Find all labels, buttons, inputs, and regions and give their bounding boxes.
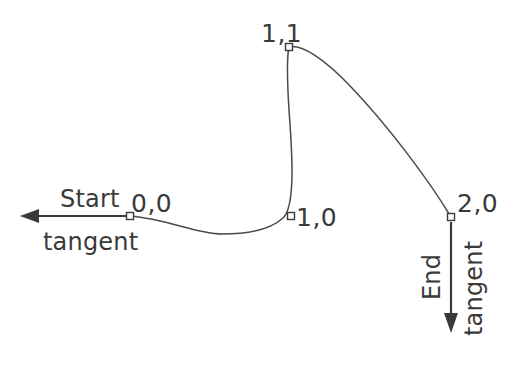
end-tangent-arrowhead-icon [444,313,458,333]
figure-canvas: 0,0 1,0 1,1 2,0 Start tangent End tangen… [0,0,514,365]
control-point-label-11: 1,1 [261,19,302,48]
end-tangent-label-line2: tangent [460,241,488,336]
spline-curve-group [130,47,451,234]
start-tangent-label-line2: tangent [43,228,138,256]
start-tangent-labels: Start tangent [43,185,138,256]
control-point-label-10: 1,0 [296,203,337,232]
control-point-marker-10[interactable] [288,213,295,220]
spline-curve [130,47,451,234]
control-point-label-00: 0,0 [131,189,172,218]
control-point-labels: 0,0 1,0 1,1 2,0 [131,19,498,232]
control-point-marker-20[interactable] [448,214,455,221]
end-tangent-arrow [444,222,458,333]
control-point-label-20: 2,0 [457,189,498,218]
start-tangent-arrowhead-icon [20,209,39,223]
end-tangent-label-line1: End [418,254,446,300]
spline-diagram-svg: 0,0 1,0 1,1 2,0 Start tangent End tangen… [0,0,514,365]
start-tangent-label-line1: Start [60,185,120,213]
